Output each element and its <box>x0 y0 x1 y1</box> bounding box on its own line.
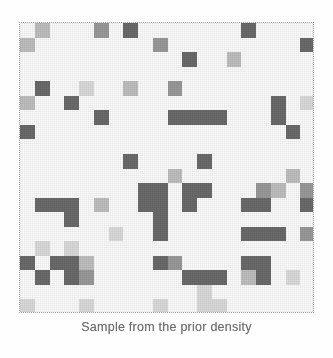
raster-cell <box>20 256 35 271</box>
raster-cell <box>182 125 197 140</box>
raster-cell <box>138 270 153 285</box>
raster-cell <box>197 96 212 111</box>
raster-cell <box>123 81 138 96</box>
raster-cell <box>64 52 79 67</box>
raster-cell <box>123 96 138 111</box>
raster-cell <box>271 212 286 227</box>
raster-cell <box>182 52 197 67</box>
raster-cell <box>153 285 168 300</box>
raster-cell <box>153 212 168 227</box>
raster-cell <box>271 241 286 256</box>
raster-cell <box>168 154 183 169</box>
raster-cell <box>94 96 109 111</box>
raster-cell <box>286 52 301 67</box>
raster-cell <box>300 125 314 140</box>
raster-cell <box>212 227 227 242</box>
raster-cell <box>241 139 256 154</box>
raster-cell <box>20 285 35 300</box>
raster-cell <box>153 67 168 82</box>
raster-cell <box>212 241 227 256</box>
raster-cell <box>94 285 109 300</box>
raster-cell <box>227 183 242 198</box>
raster-cell <box>168 183 183 198</box>
raster-cell <box>153 110 168 125</box>
raster-cell <box>64 241 79 256</box>
raster-cell <box>256 169 271 184</box>
raster-cell <box>35 285 50 300</box>
raster-cell <box>109 67 124 82</box>
raster-cell <box>123 241 138 256</box>
raster-cell <box>109 212 124 227</box>
raster-cell <box>94 154 109 169</box>
raster-cell <box>50 212 65 227</box>
raster-cell <box>286 183 301 198</box>
raster-cell <box>20 154 35 169</box>
raster-cell <box>94 183 109 198</box>
raster-cell <box>256 139 271 154</box>
raster-cell <box>286 270 301 285</box>
raster-cell <box>227 125 242 140</box>
raster-cell <box>227 23 242 38</box>
raster-cell <box>271 125 286 140</box>
raster-cell <box>123 212 138 227</box>
raster-cell <box>50 241 65 256</box>
raster-cell <box>227 110 242 125</box>
raster-cell <box>197 227 212 242</box>
raster-cell <box>64 270 79 285</box>
raster-cell <box>286 125 301 140</box>
raster-cell <box>50 23 65 38</box>
raster-cell <box>79 299 94 313</box>
raster-cell <box>35 212 50 227</box>
raster-cell <box>153 139 168 154</box>
raster-cell <box>256 227 271 242</box>
raster-cell <box>227 139 242 154</box>
raster-cell <box>64 256 79 271</box>
raster-cell <box>50 125 65 140</box>
raster-cell <box>153 96 168 111</box>
raster-cell <box>153 23 168 38</box>
raster-cell <box>241 154 256 169</box>
raster-cell <box>182 110 197 125</box>
raster-cell <box>241 23 256 38</box>
raster-cell <box>197 139 212 154</box>
raster-cell <box>182 198 197 213</box>
raster-cell <box>168 96 183 111</box>
raster-cell <box>182 38 197 53</box>
raster-cell <box>138 227 153 242</box>
raster-cell <box>153 125 168 140</box>
raster-cell <box>138 110 153 125</box>
raster-cell <box>182 139 197 154</box>
raster-cell <box>123 270 138 285</box>
raster-cell <box>182 169 197 184</box>
raster-cell <box>35 169 50 184</box>
raster-cell <box>79 183 94 198</box>
raster-cell <box>286 299 301 313</box>
raster-cell <box>35 241 50 256</box>
raster-cell <box>300 96 314 111</box>
raster-cell <box>138 125 153 140</box>
raster-cell <box>64 67 79 82</box>
raster-cell <box>109 256 124 271</box>
raster-cell <box>153 198 168 213</box>
raster-cell <box>197 241 212 256</box>
raster-cell <box>168 285 183 300</box>
raster-cell <box>138 169 153 184</box>
raster-cell <box>256 198 271 213</box>
raster-cell <box>35 110 50 125</box>
raster-cell <box>300 183 314 198</box>
raster-cell <box>197 154 212 169</box>
raster-cell <box>20 110 35 125</box>
raster-cell <box>212 67 227 82</box>
raster-cell <box>227 81 242 96</box>
raster-cell <box>271 169 286 184</box>
raster-cell <box>153 227 168 242</box>
raster-cell <box>20 169 35 184</box>
raster-cell <box>212 212 227 227</box>
raster-cell <box>271 183 286 198</box>
raster-cell <box>79 285 94 300</box>
raster-cell <box>182 227 197 242</box>
raster-cell <box>241 96 256 111</box>
raster-cell <box>212 270 227 285</box>
raster-cell <box>197 81 212 96</box>
raster-cell <box>212 52 227 67</box>
